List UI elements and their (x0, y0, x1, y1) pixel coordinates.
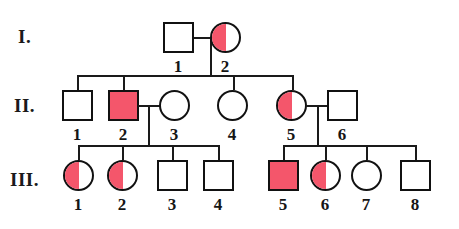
individual-ii-5[interactable] (276, 90, 307, 121)
individual-ii-3[interactable] (159, 90, 190, 121)
individual-iii-6[interactable] (310, 160, 341, 191)
child-drop-iii-8 (415, 145, 417, 160)
individual-ii-1[interactable] (62, 90, 93, 121)
descent-line-ii2-ii3 (148, 105, 150, 145)
id-label-iii-4: 4 (207, 196, 229, 213)
individual-ii-6[interactable] (327, 90, 358, 121)
id-label-iii-3: 3 (161, 196, 183, 213)
sibship-bar-gen3-left (78, 145, 218, 147)
generation-label-iii: III. (10, 170, 39, 189)
individual-i-2[interactable] (210, 22, 241, 53)
individual-ii-4[interactable] (217, 90, 248, 121)
fill-indicator-i-2 (212, 24, 226, 51)
generation-label-ii: II. (14, 96, 35, 115)
generation-label-i: I. (18, 27, 31, 46)
child-drop-iii-3 (172, 145, 174, 160)
individual-iii-7[interactable] (351, 160, 382, 191)
child-drop-ii-4 (233, 75, 235, 90)
id-label-ii-6: 6 (331, 126, 353, 143)
fill-indicator-iii-5 (270, 162, 297, 189)
child-drop-iii-7 (366, 145, 368, 160)
fill-indicator-iii-2 (109, 162, 123, 189)
child-drop-iii-2 (122, 145, 124, 160)
id-label-iii-1: 1 (67, 196, 89, 213)
id-label-i-2: 2 (214, 58, 236, 75)
pedigree-chart: I. II. III. 1 2 1 2 3 4 5 6 (0, 0, 459, 229)
id-label-iii-2: 2 (111, 196, 133, 213)
child-drop-ii-1 (77, 75, 79, 90)
child-drop-iii-6 (325, 145, 327, 160)
child-drop-iii-1 (78, 145, 80, 160)
id-label-ii-4: 4 (221, 126, 243, 143)
id-label-i-1: 1 (167, 58, 189, 75)
sibship-bar-gen2 (77, 75, 293, 77)
individual-iii-2[interactable] (107, 160, 138, 191)
id-label-ii-1: 1 (66, 126, 88, 143)
id-label-ii-2: 2 (112, 126, 134, 143)
individual-i-1[interactable] (163, 22, 194, 53)
fill-indicator-ii-5 (278, 92, 292, 119)
id-label-ii-5: 5 (280, 126, 302, 143)
sibship-bar-gen3-right (283, 145, 415, 147)
child-drop-iii-4 (218, 145, 220, 160)
fill-indicator-iii-1 (65, 162, 79, 189)
individual-iii-4[interactable] (203, 160, 234, 191)
child-drop-ii-5 (292, 75, 294, 90)
child-drop-ii-2 (123, 75, 125, 90)
id-label-iii-7: 7 (355, 196, 377, 213)
individual-ii-2[interactable] (108, 90, 139, 121)
id-label-iii-8: 8 (404, 196, 426, 213)
child-drop-iii-5 (283, 145, 285, 160)
individual-iii-5[interactable] (268, 160, 299, 191)
fill-indicator-iii-6 (312, 162, 326, 189)
id-label-iii-6: 6 (314, 196, 336, 213)
descent-line-ii5-ii6 (317, 105, 319, 145)
individual-iii-3[interactable] (157, 160, 188, 191)
individual-iii-1[interactable] (63, 160, 94, 191)
id-label-iii-5: 5 (272, 196, 294, 213)
id-label-ii-3: 3 (163, 126, 185, 143)
fill-indicator-ii-2 (110, 92, 137, 119)
individual-iii-8[interactable] (400, 160, 431, 191)
